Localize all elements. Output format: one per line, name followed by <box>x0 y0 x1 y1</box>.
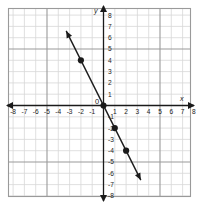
y-tick-label: 3 <box>108 68 112 75</box>
x-tick-label: 2 <box>124 108 128 115</box>
coordinate-plane-figure: -8-7-6-5-4-3-2-112345678 -8-7-6-5-4-3-2-… <box>0 0 201 216</box>
x-tick-label: -8 <box>10 108 16 115</box>
y-tick-label: 8 <box>108 12 112 19</box>
x-tick-label: 8 <box>192 108 196 115</box>
data-point <box>78 57 84 63</box>
data-point <box>123 148 129 154</box>
y-tick-label: -5 <box>108 158 114 165</box>
y-tick-label: -6 <box>108 170 114 177</box>
x-tick-label: 7 <box>181 108 185 115</box>
x-tick-label: 6 <box>169 108 173 115</box>
x-tick-label: -6 <box>33 108 39 115</box>
x-tick-label: -7 <box>21 108 27 115</box>
x-tick-label: 3 <box>136 108 140 115</box>
data-point <box>100 102 106 108</box>
y-tick-label: -8 <box>108 192 114 199</box>
y-tick-label: 6 <box>108 34 112 41</box>
x-tick-label: -3 <box>67 108 73 115</box>
y-tick-label: 5 <box>108 45 112 52</box>
y-tick-label: 2 <box>108 79 112 86</box>
data-point <box>112 125 118 131</box>
x-tick-label: 5 <box>158 108 162 115</box>
x-axis-label: x <box>179 94 184 103</box>
y-tick-label: -4 <box>108 147 114 154</box>
y-tick-label: -3 <box>108 136 114 143</box>
x-tick-label: -5 <box>44 108 50 115</box>
y-tick-label: 4 <box>108 57 112 64</box>
coordinate-grid-svg: -8-7-6-5-4-3-2-112345678 -8-7-6-5-4-3-2-… <box>0 0 201 216</box>
y-tick-label: -7 <box>108 181 114 188</box>
origin-label: 0 <box>95 97 99 106</box>
y-tick-label: 1 <box>108 91 112 98</box>
y-axis-label: y <box>93 6 98 15</box>
y-tick-label: 7 <box>108 23 112 30</box>
x-tick-label: -1 <box>89 108 95 115</box>
x-tick-label: 4 <box>147 108 151 115</box>
x-tick-label: -4 <box>55 108 61 115</box>
x-tick-label: -2 <box>78 108 84 115</box>
